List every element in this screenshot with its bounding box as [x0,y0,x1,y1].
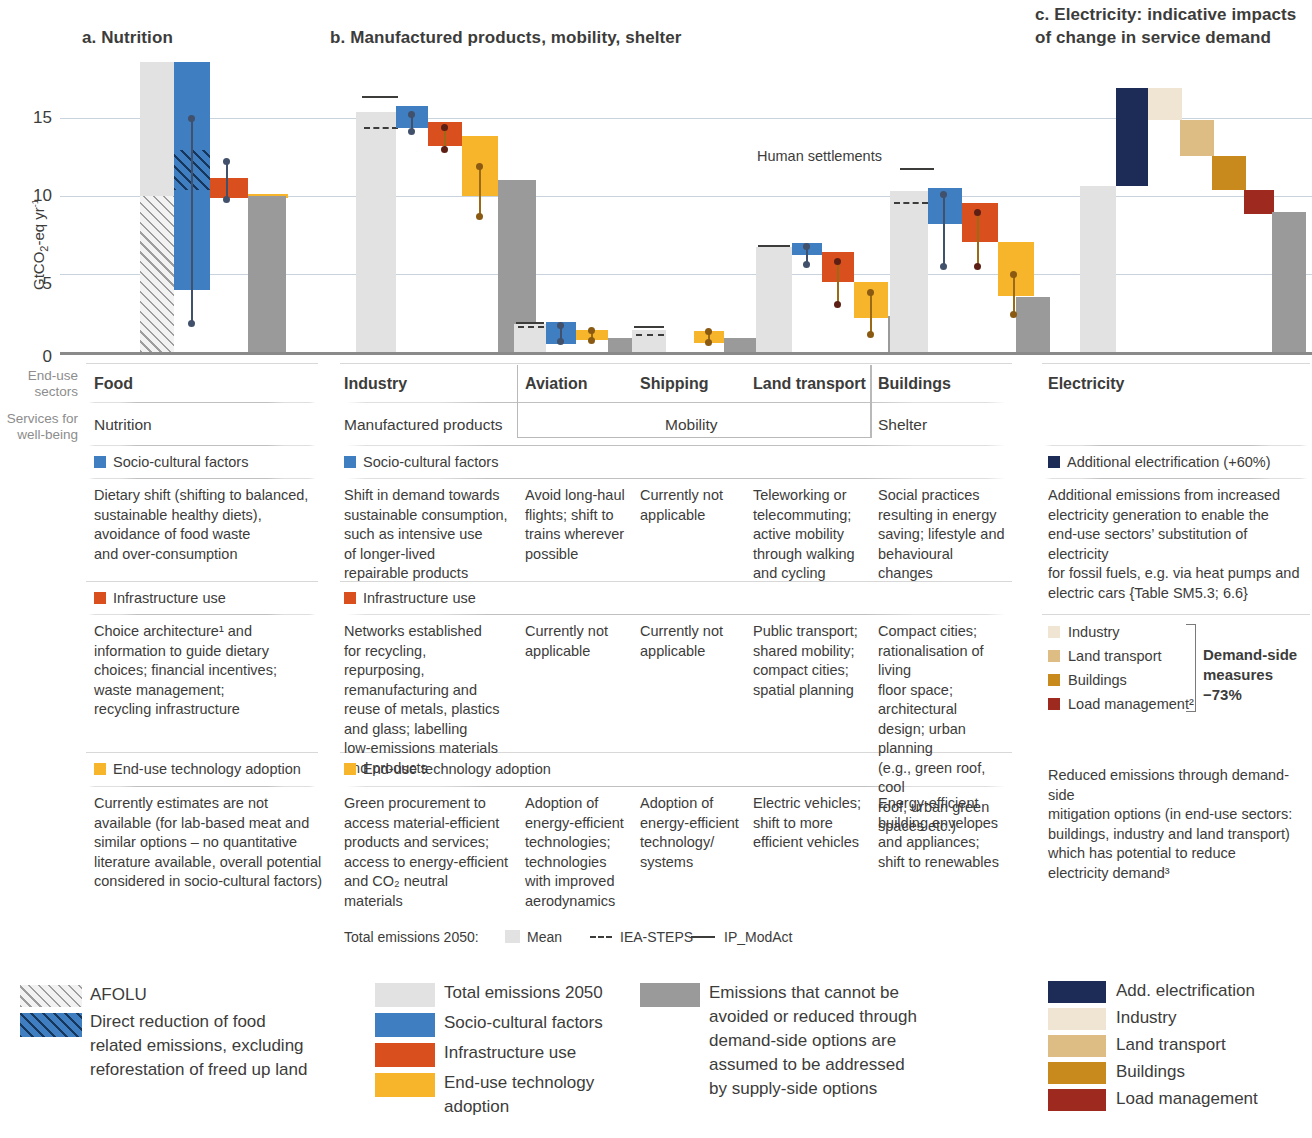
content-tech-land-transport: Electric vehicles; shift to more efficie… [753,794,871,853]
bar-electricity-load-management [1244,190,1274,214]
bar-electricity-residual [1272,212,1306,352]
content-infra-industry: Networks established for recycling, repu… [344,622,509,778]
content-tech-shipping: Adoption of energy-efficient technology/… [640,794,745,872]
sector-header-aviation: Aviation [525,374,588,394]
whisker-dot-land-transport-infra-high [834,258,841,265]
whisker-food-infra [226,161,228,200]
bar-buildings-residual [1016,297,1050,352]
whisker-dot-shipping-tech-high [705,328,712,335]
whisker-dot-aviation-socio-high [557,322,564,329]
panel-c-title-line1: c. Electricity: indicative impacts [1035,5,1296,25]
bar-shipping-residual [724,338,756,352]
content-infra-shipping: Currently not applicable [640,622,745,661]
swatch-electricity-industry [1048,626,1060,638]
y-tick-15: 15 [12,108,52,128]
content-tech-buildings: Energy-efficient building envelopes and … [878,794,1013,872]
inline-legend-ip-modact-marker [691,936,715,938]
bar-buildings-infrastructure-use [962,203,998,242]
swatch-socio-industry [344,456,356,468]
whisker-dot-buildings-tech-high [1010,271,1017,278]
whisker-industry-tech [479,166,481,216]
y-tick-5: 5 [12,274,52,294]
whisker-dot-food-socio-high [188,115,195,122]
legend-electricity-industry: Industry [1068,623,1120,643]
bar-electricity-total [1080,186,1116,352]
legend-label-socio-cultural: Socio-cultural factors [444,1011,603,1035]
service-nutrition: Nutrition [94,415,152,435]
divider-b-5 [340,614,1012,615]
inline-legend-ip-modact-label: IP_ModAct [724,929,792,945]
service-mobility: Mobility [665,415,718,435]
swatch-tech-industry [344,763,356,775]
bar-electricity-industry [1148,88,1182,120]
left-label-end-use-sectors-line2: sectors [0,384,78,400]
content-tech-aviation: Adoption of energy-efficient technologie… [525,794,630,911]
content-socio-shipping: Currently not applicable [640,486,745,525]
legend-label-end-use-technology: End-use technology adoption [444,1071,614,1119]
whisker-buildings-socio [943,194,945,266]
whisker-dot-industry-infra-low [441,146,448,153]
content-infra-land-transport: Public transport; shared mobility; compa… [753,622,871,700]
whisker-dot-land-transport-tech-high [867,289,874,296]
divider-c-top [1042,363,1310,364]
left-label-services-line1: Services for [0,411,78,427]
whisker-dot-buildings-socio-high [940,191,947,198]
whisker-dot-industry-socio-low [408,128,415,135]
divider-a-1 [86,402,318,403]
legend-swatch-buildings [1048,1062,1106,1084]
divider-c-3 [1042,614,1310,615]
option-header-tech-industry: End-use technology adoption [363,760,551,780]
legend-swatch-socio-cultural [375,1013,435,1037]
marker-land-transport-iea-steps [760,245,790,247]
divider-a-5 [86,614,318,615]
legend-label-infrastructure-use: Infrastructure use [444,1041,576,1065]
demand-side-brace [1186,624,1196,712]
legend-swatch-infrastructure-use [375,1043,435,1067]
option-header-tech-food: End-use technology adoption [113,760,301,780]
left-label-end-use-sectors-line1: End-use [0,368,78,384]
legend-swatch-afolu [20,985,82,1007]
legend-label-residual-note: Emissions that cannot be avoided or redu… [709,981,959,1101]
marker-industry-iea-steps [364,127,398,129]
divider-a-4 [86,581,318,582]
whisker-dot-land-transport-socio-high [803,243,810,250]
content-infra-food: Choice architecture¹ and information to … [94,622,324,720]
legend-label-afolu: AFOLU [90,983,147,1007]
demand-side-measures-line1: Demand-side [1203,645,1297,665]
divider-a-top [86,363,318,364]
table-vline-aviation [517,365,518,437]
panel-b-title: b. Manufactured products, mobility, shel… [330,28,682,48]
content-tech-food: Currently estimates are not available (f… [94,794,334,892]
whisker-dot-aviation-tech-high [588,327,595,334]
demand-side-measures-line3: −73% [1203,685,1242,705]
marker-aviation-iea-steps [518,326,544,328]
legend-label-add-electrification: Add. electrification [1116,979,1255,1003]
whisker-food-socio [191,118,193,324]
inline-legend-iea-steps-marker [590,936,612,938]
bar-electricity-additional-electrification [1116,88,1148,186]
whisker-dot-buildings-infra-high [974,209,981,216]
content-socio-industry: Shift in demand towards sustainable cons… [344,486,509,584]
divider-c-2 [1042,478,1310,479]
content-electricity-addel-body: Additional emissions from increased elec… [1048,486,1310,603]
whisker-dot-industry-socio-high [408,111,415,118]
content-infra-aviation: Currently not applicable [525,622,630,661]
legend-label-buildings: Buildings [1116,1060,1185,1084]
inline-legend-mean-swatch [505,930,520,943]
figure-root: a. Nutrition b. Manufactured products, m… [0,0,1312,1138]
y-tick-10: 10 [12,186,52,206]
whisker-dot-food-infra-low [223,196,230,203]
legend-swatch-land-transport [1048,1035,1106,1057]
legend-label-direct-reduction: Direct reduction of food related emissio… [90,1010,360,1082]
content-socio-food: Dietary shift (shifting to balanced, sus… [94,486,324,564]
swatch-infra-food [94,592,106,604]
content-socio-aviation: Avoid long-haul flights; shift to trains… [525,486,630,564]
whisker-buildings-tech [1013,274,1015,314]
inline-legend-prefix: Total emissions 2050: [344,929,479,945]
legend-swatch-direct-reduction [20,1013,82,1037]
content-electricity-reduced-body: Reduced emissions through demand-side mi… [1048,766,1310,883]
bar-aviation-total [514,324,546,352]
whisker-buildings-infra [977,212,979,266]
inline-legend-mean-label: Mean [527,929,562,945]
y-tick-0: 0 [12,347,52,367]
